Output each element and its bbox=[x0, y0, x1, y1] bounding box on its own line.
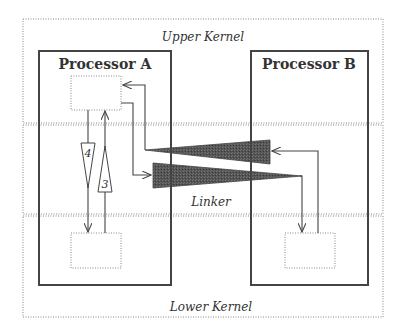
kernel-linker-diagram: Upper Kernel Linker Lower Kernel Process… bbox=[0, 0, 405, 336]
flow-4: 4 bbox=[81, 110, 95, 232]
flow-2-label: 2 bbox=[158, 171, 165, 182]
flow-4-label: 4 bbox=[84, 147, 92, 160]
processor-b: Processor B bbox=[251, 51, 368, 285]
processor-b-lower-module bbox=[285, 233, 335, 268]
flow-1-label: 1 bbox=[259, 147, 265, 158]
flow-3-label: 3 bbox=[102, 178, 109, 191]
linker-label: Linker bbox=[190, 195, 232, 209]
processor-a-lower-module bbox=[71, 233, 121, 268]
processor-a-upper-module bbox=[71, 76, 121, 110]
upper-kernel-label: Upper Kernel bbox=[162, 30, 244, 44]
processor-b-label: Processor B bbox=[262, 56, 356, 72]
region-lower-kernel: Lower Kernel bbox=[23, 216, 383, 317]
flow-3: 3 bbox=[98, 111, 112, 233]
processor-a-label: Processor A bbox=[59, 56, 153, 72]
lower-kernel-label: Lower Kernel bbox=[169, 300, 252, 314]
flow-1: 1 bbox=[123, 85, 318, 233]
flow-2: 2 bbox=[121, 103, 302, 232]
